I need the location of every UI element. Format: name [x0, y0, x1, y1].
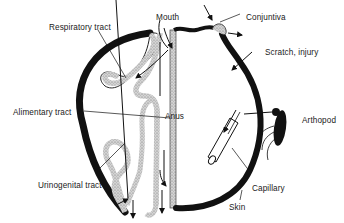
- arthropod-icon: [244, 108, 288, 160]
- label-urinogenital-tract: Urinogenital tract: [38, 182, 102, 190]
- conjunctiva-bump: [212, 24, 226, 35]
- label-capillary: Capillary: [252, 185, 285, 193]
- infection-sites-diagram: Respiratory tract Mouth Conjuntiva Scrat…: [0, 0, 344, 223]
- label-arthropod: Arthopod: [302, 117, 336, 125]
- skin-right-arc: [174, 27, 261, 208]
- capillary-tube: [207, 110, 240, 165]
- label-conjuntiva: Conjuntiva: [246, 14, 286, 22]
- label-anus: Anus: [165, 113, 184, 121]
- label-respiratory-tract: Respiratory tract: [49, 24, 111, 32]
- label-scratch-injury: Scratch, injury: [265, 49, 318, 57]
- label-mouth: Mouth: [156, 14, 179, 22]
- label-alimentary-tract: Alimentary tract: [13, 109, 71, 117]
- label-skin: Skin: [229, 204, 245, 212]
